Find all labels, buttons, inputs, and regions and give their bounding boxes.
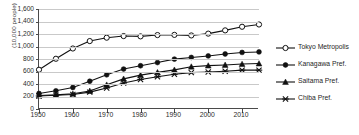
legend-label: Tokyo Metropolis bbox=[298, 44, 349, 51]
gridline bbox=[39, 59, 259, 60]
x-tick-label: 1990 bbox=[158, 112, 188, 119]
y-tick-mark bbox=[36, 9, 39, 10]
legend-marker-filled-triangle-icon bbox=[276, 77, 295, 87]
y-tick-mark bbox=[36, 47, 39, 48]
legend-marker-open-circle-icon bbox=[276, 43, 295, 53]
x-tick-label: 1950 bbox=[23, 112, 53, 119]
legend-item[interactable]: Chiba Pref. bbox=[276, 90, 359, 107]
plot-area bbox=[38, 9, 258, 109]
gridline bbox=[39, 97, 259, 98]
y-tick-mark bbox=[36, 34, 39, 35]
legend-item[interactable]: Saitama Pref. bbox=[276, 73, 359, 90]
legend-label: Kanagawa Pref. bbox=[298, 61, 346, 68]
y-tick-label: 1,400 bbox=[17, 18, 34, 25]
x-tick-label: 2000 bbox=[192, 112, 222, 119]
y-tick-label: 800 bbox=[23, 56, 34, 63]
x-tick-label: 1960 bbox=[57, 112, 87, 119]
legend-label: Saitama Pref. bbox=[298, 78, 339, 85]
y-tick-label: 1,000 bbox=[17, 43, 34, 50]
legend-item[interactable]: Tokyo Metropolis bbox=[276, 39, 359, 56]
x-axis-tick-labels: 1950196019701980199020002010 bbox=[0, 112, 359, 128]
y-tick-label: 600 bbox=[23, 68, 34, 75]
y-tick-label: 1,600 bbox=[17, 6, 34, 13]
legend-marker-filled-circle-icon bbox=[276, 60, 295, 70]
gridline bbox=[39, 84, 259, 85]
gridline bbox=[39, 9, 259, 10]
y-tick-label: 200 bbox=[23, 93, 34, 100]
chart-legend: Tokyo MetropolisKanagawa Pref.Saitama Pr… bbox=[276, 39, 359, 107]
gridline bbox=[39, 34, 259, 35]
legend-item[interactable]: Kanagawa Pref. bbox=[276, 56, 359, 73]
legend-marker-x-cross-icon bbox=[276, 94, 295, 104]
y-tick-mark bbox=[36, 97, 39, 98]
x-tick-label: 1980 bbox=[125, 112, 155, 119]
series-kanagawa-pref bbox=[37, 50, 262, 96]
gridline bbox=[39, 72, 259, 73]
y-tick-mark bbox=[36, 59, 39, 60]
chart-container: (10,000 people) 02004006008001,0001,2001… bbox=[0, 0, 359, 135]
y-tick-label: 1,200 bbox=[17, 31, 34, 38]
legend-label: Chiba Pref. bbox=[298, 95, 332, 102]
x-tick-label: 2010 bbox=[226, 112, 256, 119]
gridline bbox=[39, 22, 259, 23]
y-tick-mark bbox=[36, 22, 39, 23]
y-tick-mark bbox=[36, 84, 39, 85]
gridline bbox=[39, 47, 259, 48]
y-tick-label: 400 bbox=[23, 81, 34, 88]
y-tick-mark bbox=[36, 72, 39, 73]
x-tick-label: 1970 bbox=[91, 112, 121, 119]
